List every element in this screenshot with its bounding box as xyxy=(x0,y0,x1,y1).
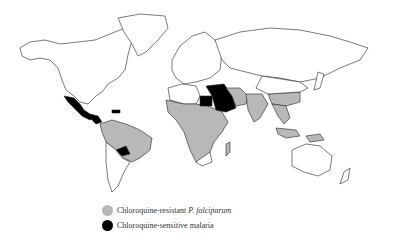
world-map xyxy=(0,0,394,200)
north-africa xyxy=(168,84,200,104)
madagascar xyxy=(226,142,230,156)
legend-label-resistant: Chloroquine-resistant xyxy=(117,206,188,215)
hispaniola xyxy=(112,110,120,113)
indonesia xyxy=(276,128,300,138)
europe xyxy=(172,32,222,84)
southeast-asia xyxy=(272,104,290,124)
new-guinea xyxy=(306,134,324,142)
asia xyxy=(215,28,368,82)
legend: Chloroquine-resistant P. falciparum Chlo… xyxy=(102,204,231,234)
central-america xyxy=(90,114,102,124)
legend-label-resistant-species: P. falciparum xyxy=(188,206,231,215)
new-zealand xyxy=(340,168,350,184)
india xyxy=(246,94,268,122)
legend-item-sensitive: Chloroquine-sensitive malaria xyxy=(102,219,231,232)
legend-item-resistant: Chloroquine-resistant P. falciparum xyxy=(102,204,231,217)
egypt xyxy=(200,96,212,106)
resistant-swatch-icon xyxy=(102,205,113,216)
legend-label-sensitive: Chloroquine-sensitive malaria xyxy=(117,221,214,230)
sensitive-swatch-icon xyxy=(102,220,113,231)
australia xyxy=(292,144,332,176)
